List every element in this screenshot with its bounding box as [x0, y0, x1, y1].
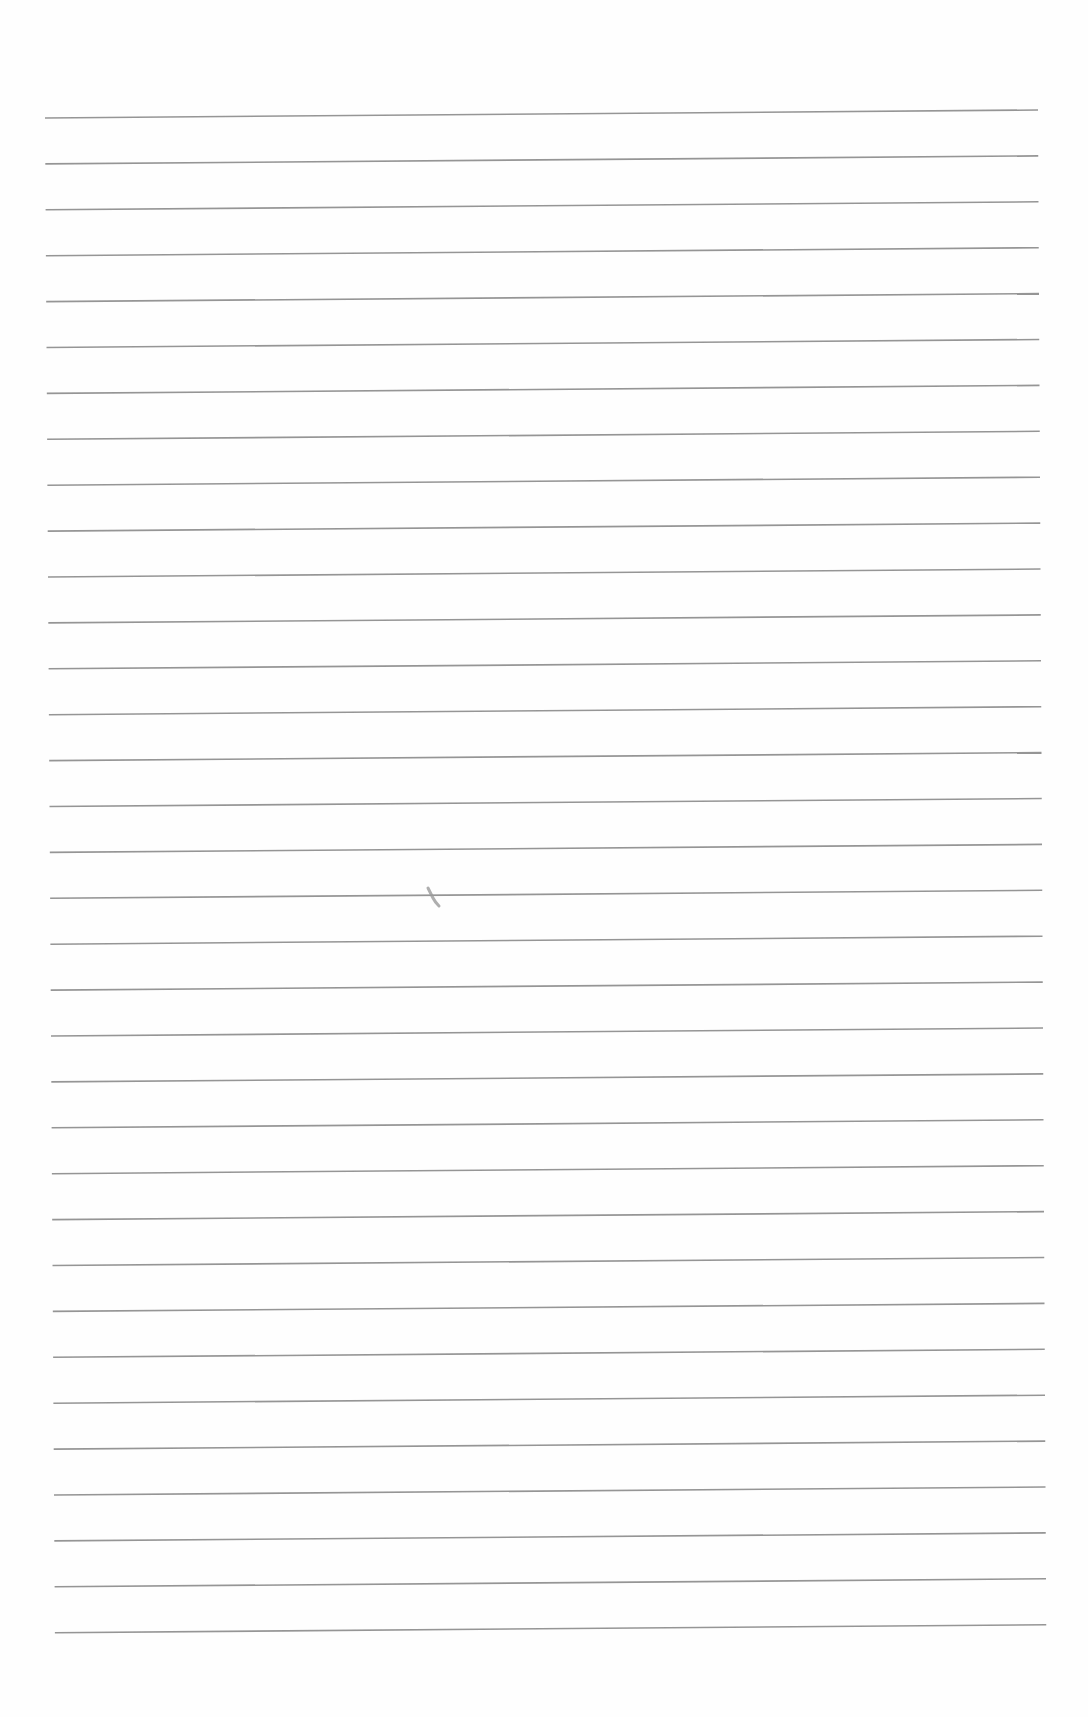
pencil-stray-mark	[0, 0, 1088, 1717]
pencil-mark	[428, 888, 439, 906]
lined-paper-page	[0, 0, 1088, 1717]
